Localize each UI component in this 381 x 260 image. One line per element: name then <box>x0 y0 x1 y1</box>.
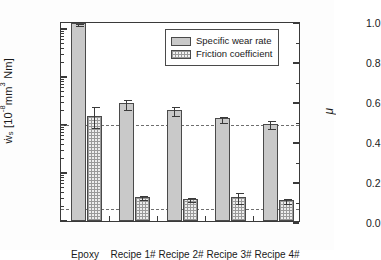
y-axis-right-tick <box>293 182 299 183</box>
y-axis-left-minor-tick <box>61 192 64 193</box>
error-bar-specific-wear-rate <box>126 100 127 111</box>
legend-swatch-wear-icon <box>171 37 191 46</box>
error-bar-cap <box>124 110 132 111</box>
error-bar-friction-coefficient <box>286 199 287 204</box>
y-axis-left-minor-tick <box>61 81 64 82</box>
error-bar-friction-coefficient <box>94 107 95 129</box>
error-bar-cap <box>172 107 180 108</box>
y-axis-right-tick <box>293 102 299 103</box>
y-axis-left-minor-tick <box>61 183 64 184</box>
y-axis-left-tick <box>61 28 67 29</box>
y-axis-right-tick <box>293 222 299 223</box>
y-axis-symbol: ẇ <box>2 135 14 143</box>
legend-item-specific-wear-rate: Specific wear rate <box>171 35 272 47</box>
error-bar-cap <box>92 107 100 108</box>
y-axis-right-tick-label: 0.8 <box>366 58 381 69</box>
y-axis-unit: mm <box>2 86 14 105</box>
chart-legend: Specific wear rate Friction coefficient <box>165 29 279 66</box>
y-axis-left-minor-tick <box>61 198 64 199</box>
y-axis-left-minor-tick <box>61 177 64 178</box>
legend-label-wear: Specific wear rate <box>196 36 272 46</box>
x-axis-category-label: Recipe 4# <box>243 249 311 260</box>
error-bar-cap <box>268 129 276 130</box>
error-bar-cap <box>268 121 276 122</box>
y-axis-left-minor-tick <box>61 39 64 40</box>
y-axis-unit-exponent: 3 <box>0 82 7 86</box>
y-axis-right-minor-tick <box>296 83 299 84</box>
y-axis-left-minor-tick <box>61 96 64 97</box>
y-axis-right-title: μ <box>322 108 336 115</box>
y-axis-left-minor-tick <box>61 144 64 145</box>
bar-specific-wear-rate <box>215 118 230 221</box>
error-bar-specific-wear-rate <box>270 121 271 130</box>
y-axis-right-minor-tick <box>296 43 299 44</box>
y-axis-left-minor-tick <box>61 43 64 44</box>
x-axis-tick <box>109 216 110 221</box>
error-bar-cap <box>220 117 228 118</box>
y-axis-left-minor-tick <box>61 110 64 111</box>
x-axis-tick <box>253 216 254 221</box>
y-axis-left-minor-tick <box>61 79 64 80</box>
y-axis-right-tick-label: 1.0 <box>366 18 381 29</box>
error-bar-friction-coefficient <box>238 193 239 205</box>
y-axis-right-tick <box>293 62 299 63</box>
error-bar-cap <box>76 24 84 25</box>
y-axis-left-tick <box>61 172 67 173</box>
y-axis-left-minor-tick <box>61 48 64 49</box>
y-axis-exponent: -8 <box>0 105 7 112</box>
y-axis-right-tick-label: 0.4 <box>366 138 381 149</box>
error-bar-cap <box>188 202 196 203</box>
y-axis-left-minor-tick <box>61 91 64 92</box>
bar-specific-wear-rate <box>71 23 86 221</box>
error-bar-cap <box>124 100 132 101</box>
y-axis-left-minor-tick <box>61 206 64 207</box>
y-axis-right-minor-tick <box>296 163 299 164</box>
y-axis-left-minor-tick <box>61 135 64 136</box>
error-bar-cap <box>140 196 148 197</box>
bar-specific-wear-rate <box>167 110 182 221</box>
bar-specific-wear-rate <box>263 124 278 221</box>
error-bar-cap <box>172 116 180 117</box>
y-axis-right-tick <box>293 142 299 143</box>
y-axis-unit-tail: Nm] <box>2 58 14 82</box>
y-axis-right-tick-label: 0.2 <box>366 178 381 189</box>
y-axis-right-tick-label: 0.0 <box>366 218 381 229</box>
y-axis-right-tick-label: 0.6 <box>366 98 381 109</box>
y-axis-left-minor-tick <box>61 87 64 88</box>
error-bar-specific-wear-rate <box>78 24 79 27</box>
y-axis-left-minor-tick <box>61 132 64 133</box>
y-axis-left-minor-tick <box>61 127 64 128</box>
y-axis-left-minor-tick <box>61 175 64 176</box>
error-bar-cap <box>92 128 100 129</box>
bar-specific-wear-rate <box>119 103 134 221</box>
legend-item-friction-coefficient: Friction coefficient <box>171 48 272 60</box>
y-axis-left-minor-tick <box>61 187 64 188</box>
y-axis-left-minor-tick <box>61 84 64 85</box>
y-axis-right-minor-tick <box>296 123 299 124</box>
error-bar-cap <box>188 198 196 199</box>
y-axis-left-minor-tick <box>61 54 64 55</box>
y-axis-left-tick <box>61 76 67 77</box>
y-axis-left-minor-tick <box>61 36 64 37</box>
y-axis-left-minor-tick <box>61 33 64 34</box>
y-axis-subscript: s <box>6 131 15 135</box>
y-axis-left-tick <box>61 220 67 221</box>
y-axis-left-minor-tick <box>61 31 64 32</box>
y-axis-left-minor-tick <box>61 129 64 130</box>
bar-friction-coefficient <box>87 116 102 221</box>
error-bar-friction-coefficient <box>142 196 143 201</box>
y-axis-left-minor-tick <box>61 139 64 140</box>
y-axis-left-minor-tick <box>61 180 64 181</box>
error-bar-friction-coefficient <box>190 198 191 203</box>
error-bar-specific-wear-rate <box>174 107 175 116</box>
error-bar-specific-wear-rate <box>222 117 223 123</box>
error-bar-cap <box>140 200 148 201</box>
y-axis-bracket: [10 <box>2 112 14 131</box>
error-bar-cap <box>284 204 292 205</box>
error-bar-cap <box>236 204 244 205</box>
x-axis-tick <box>157 216 158 221</box>
y-axis-right-minor-tick <box>296 203 299 204</box>
y-axis-right-tick <box>293 22 299 23</box>
x-axis-tick <box>205 216 206 221</box>
